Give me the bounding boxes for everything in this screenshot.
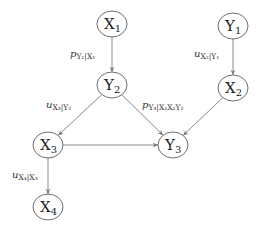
dependency-graph: X1Y1Y2X2X3Y3X4 pY₂|X₁uX₂|Y₁uX₃|Y₂pY₃|X₁X… [0, 0, 266, 232]
edge-y2-x3 [58, 95, 102, 136]
edge-x2-y3 [183, 98, 223, 136]
node-x1: X1 [97, 11, 127, 37]
node-y2: Y2 [97, 72, 127, 98]
graph-svg: X1Y1Y2X2X3Y3X4 pY₂|X₁uX₂|Y₁uX₃|Y₂pY₃|X₁X… [0, 0, 266, 232]
edge-label-y2-x3: uX₃|Y₂ [46, 99, 71, 112]
node-x4: X4 [33, 194, 63, 220]
nodes-group: X1Y1Y2X2X3Y3X4 [33, 11, 248, 220]
edge-label-y1-x2: uX₂|Y₁ [194, 48, 219, 61]
node-x3: X3 [33, 132, 63, 158]
edge-labels-group: pY₂|X₁uX₂|Y₁uX₃|Y₂pY₃|X₁X₂Y₂uX₄|X₃ [12, 48, 219, 182]
node-y1: Y1 [218, 13, 248, 39]
edge-label-y2-y3: pY₃|X₁X₂Y₂ [142, 99, 184, 112]
node-x2: X2 [218, 75, 248, 101]
edge-label-x1-y2: pY₂|X₁ [70, 48, 95, 61]
node-y3: Y3 [158, 132, 188, 158]
edge-label-x3-x4: uX₄|X₃ [12, 169, 38, 182]
